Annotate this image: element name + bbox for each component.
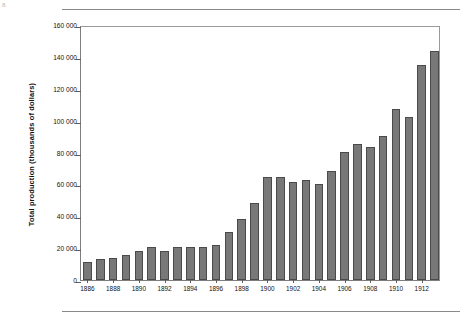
bar xyxy=(83,262,91,280)
x-axis-tick-mark xyxy=(396,280,397,283)
x-axis-tick-mark xyxy=(190,280,191,283)
bar xyxy=(199,247,207,280)
x-axis-tick-mark xyxy=(242,280,243,283)
x-axis-tick-mark xyxy=(216,280,217,283)
x-axis-tick-mark xyxy=(267,280,268,283)
x-axis-tick-mark xyxy=(113,280,114,283)
y-axis-tick-label: 40 000 xyxy=(57,213,77,220)
y-axis-tick-label: 20 000 xyxy=(57,245,77,252)
x-axis-tick-label: 1894 xyxy=(183,285,197,292)
bar-chart-figure: Total production (thousands of dollars) … xyxy=(0,0,467,320)
bar xyxy=(379,136,387,280)
x-axis-tick-mark xyxy=(293,280,294,283)
y-axis-tick-label: 0 xyxy=(73,277,77,284)
bar xyxy=(315,184,323,280)
y-axis-tick-label: 160 000 xyxy=(53,22,77,29)
x-axis-tick-label: 1908 xyxy=(363,285,377,292)
x-axis-tick-label: 1898 xyxy=(235,285,249,292)
y-axis-tick-label: 60 000 xyxy=(57,181,77,188)
bar xyxy=(405,117,413,280)
bar xyxy=(276,177,284,280)
x-axis-tick-label: 1886 xyxy=(80,285,94,292)
bar xyxy=(250,203,258,280)
x-axis-tick-label: 1896 xyxy=(209,285,223,292)
x-axis-tick-mark xyxy=(139,280,140,283)
bar xyxy=(237,219,245,280)
x-axis-tick-label: 1892 xyxy=(157,285,171,292)
x-axis-tick-label: 1912 xyxy=(415,285,429,292)
x-axis-tick-label: 1890 xyxy=(132,285,146,292)
bar xyxy=(302,180,310,280)
bar xyxy=(135,251,143,280)
x-axis-tick-label: 1888 xyxy=(106,285,120,292)
x-axis-tick-mark xyxy=(165,280,166,283)
x-axis-tick-label: 1906 xyxy=(337,285,351,292)
plot-area: 020 00040 00060 00080 000100 000120 0001… xyxy=(80,26,440,281)
x-axis-tick-label: 1910 xyxy=(389,285,403,292)
y-axis-tick-label: 80 000 xyxy=(57,150,77,157)
y-axis-tick-label: 140 000 xyxy=(53,54,77,61)
y-axis-label: Total production (thousands of dollars) xyxy=(27,50,36,260)
bar xyxy=(289,182,297,280)
bar xyxy=(173,247,181,280)
x-axis-tick-mark xyxy=(370,280,371,283)
bar xyxy=(366,147,374,280)
x-axis-tick-mark xyxy=(422,280,423,283)
bar xyxy=(160,251,168,280)
bar xyxy=(147,247,155,280)
bar xyxy=(186,247,194,280)
bar-series xyxy=(81,27,439,280)
bar xyxy=(417,65,425,280)
x-axis-tick-label: 1902 xyxy=(286,285,300,292)
x-axis-tick-mark xyxy=(87,280,88,283)
x-axis-tick-mark xyxy=(319,280,320,283)
bar xyxy=(96,259,104,280)
x-axis-tick-label: 1900 xyxy=(260,285,274,292)
bar xyxy=(430,51,438,280)
bar xyxy=(225,232,233,280)
bar xyxy=(392,109,400,280)
y-axis-tick-label: 100 000 xyxy=(53,118,77,125)
bar xyxy=(122,255,130,280)
bar xyxy=(109,258,117,280)
x-axis-tick-mark xyxy=(345,280,346,283)
bar xyxy=(353,144,361,280)
x-axis-tick-label: 1904 xyxy=(312,285,326,292)
bar xyxy=(340,152,348,280)
bar xyxy=(263,177,271,280)
bar xyxy=(327,171,335,280)
y-axis-tick-label: 120 000 xyxy=(53,86,77,93)
bar xyxy=(212,245,220,280)
